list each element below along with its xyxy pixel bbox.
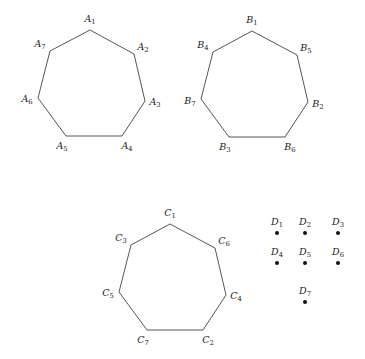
heptagon-a-vertex-a4-label: A4: [120, 140, 132, 153]
heptagon-a-vertex-a7-label: A7: [33, 38, 45, 51]
heptagon-b-vertex-b2-label: B2: [311, 98, 323, 111]
heptagon-b-vertex-b1-label: B1: [245, 14, 257, 27]
heptagon-c: C1C6C4C2C7C5C3: [102, 207, 242, 347]
geometry-figure: A1A2A3A4A5A6A7B1B5B2B6B3B7B4C1C6C4C2C7C5…: [0, 0, 365, 359]
point-d6-label: D6: [331, 246, 344, 259]
heptagon-c-vertex-c2-label: C2: [202, 334, 214, 347]
heptagon-a-vertex-a6-label: A6: [20, 93, 32, 106]
point-d2-label: D2: [298, 216, 311, 229]
heptagon-a: A1A2A3A4A5A6A7: [20, 13, 160, 153]
point-d7-dot: [303, 300, 307, 304]
heptagon-c-outline: [119, 224, 226, 330]
heptagon-a-vertex-a1-label: A1: [83, 13, 95, 26]
point-d4-label: D4: [270, 246, 283, 259]
heptagon-a-vertex-a2-label: A2: [136, 41, 148, 54]
heptagon-a-outline: [38, 30, 145, 136]
heptagon-a-vertex-a5-label: A5: [55, 140, 67, 153]
point-d2-dot: [303, 231, 307, 235]
heptagon-b-vertex-b7-label: B7: [183, 95, 195, 108]
point-d1-dot: [275, 231, 279, 235]
point-d7-label: D7: [298, 285, 311, 298]
point-d5-dot: [303, 261, 307, 265]
point-d6-dot: [336, 261, 340, 265]
heptagon-c-vertex-c5-label: C5: [102, 287, 114, 300]
point-d4-dot: [275, 261, 279, 265]
heptagon-c-vertex-c7-label: C7: [137, 334, 149, 347]
heptagon-b-vertex-b6-label: B6: [283, 141, 295, 154]
point-d3-dot: [336, 231, 340, 235]
heptagon-c-vertex-c1-label: C1: [164, 207, 176, 220]
heptagon-b: B1B5B2B6B3B7B4: [183, 14, 323, 154]
point-d1-label: D1: [270, 216, 283, 229]
heptagon-b-outline: [201, 31, 308, 137]
heptagon-b-vertex-b5-label: B5: [299, 42, 311, 55]
heptagon-b-vertex-b3-label: B3: [218, 141, 230, 154]
heptagon-c-vertex-c4-label: C4: [230, 290, 242, 303]
heptagon-b-vertex-b4-label: B4: [196, 39, 208, 52]
point-d5-label: D5: [298, 246, 311, 259]
heptagon-c-vertex-c6-label: C6: [218, 235, 230, 248]
heptagon-c-vertex-c3-label: C3: [115, 232, 127, 245]
point-set-d: D1D2D3D4D5D6D7: [270, 216, 344, 304]
point-d3-label: D3: [331, 216, 344, 229]
heptagon-a-vertex-a3-label: A3: [148, 96, 160, 109]
